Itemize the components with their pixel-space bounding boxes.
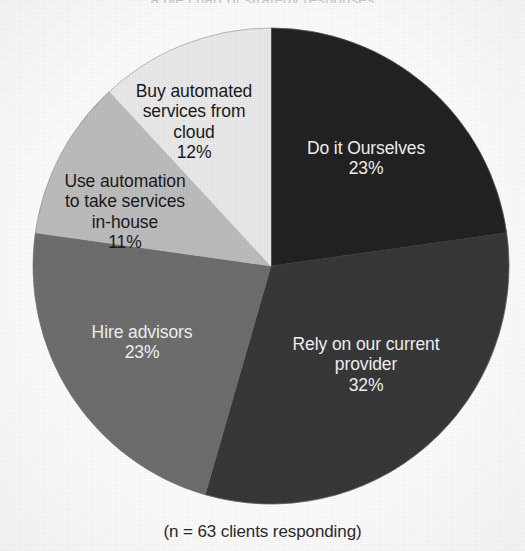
pie-chart-svg <box>0 0 525 515</box>
chart-caption: (n = 63 clients responding) <box>0 522 525 542</box>
pie-chart: Do it Ourselves 23% Rely on our current … <box>0 0 525 515</box>
chart-page: a pie chart of strategy responses Do it … <box>0 0 525 551</box>
pie-slice <box>271 28 507 266</box>
pie-slice-group <box>33 28 509 504</box>
